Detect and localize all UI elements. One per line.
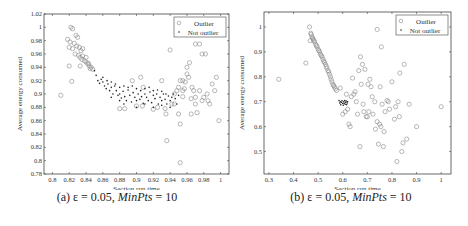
inlier-point [123,85,125,87]
outlier-point [375,27,379,31]
inlier-point [343,101,345,103]
outlier-point [68,40,72,44]
inlier-point [147,100,149,102]
outlier-point [155,105,159,109]
inlier-point [137,93,139,95]
x-tick-label: 0.9 [132,176,140,183]
outlier-point [405,137,409,141]
y-tick-label: 0.96 [31,50,43,57]
outlier-point [373,127,377,131]
caption-minpts-name: MinPts [118,190,153,204]
inlier-point [166,103,168,105]
inlier-point [131,101,133,103]
inlier-point [127,87,129,89]
inlier-point [106,80,108,82]
outlier-point [213,89,217,93]
outlier-point [353,90,357,94]
outlier-point [329,77,333,81]
x-tick-label: 0.3 [265,176,273,183]
inlier-point [144,103,146,105]
caption-label: (b) [290,190,304,204]
outlier-point [165,139,169,143]
inlier-point [344,100,346,102]
outlier-point [181,79,185,83]
inlier-point [110,97,112,99]
outlier-point [369,85,373,89]
x-tick-label: 1 [440,176,443,183]
outlier-point [344,92,348,96]
inlier-point [165,93,167,95]
outlier-point [385,98,389,102]
x-tick-label: 0.88 [114,176,125,183]
x-tick-label: 0.9 [412,176,420,183]
outlier-point [354,100,358,104]
caption-minpts-value: = 10 [390,190,412,204]
axes-frame [44,14,229,174]
outlier-point [189,97,193,101]
inlier-point [163,93,165,95]
caption-minpts-name: MinPts [352,190,387,204]
outlier-point [181,95,185,99]
inlier-point [115,83,117,85]
inlier-point [119,100,121,102]
y-tick-label: 1.02 [31,10,42,17]
y-axis-label: Average energy consumed [238,56,246,130]
outlier-point [214,75,218,79]
inlier-point [164,99,166,101]
y-tick-label: 0.9 [254,48,262,55]
caption-label: (a) [57,190,70,204]
outlier-point [352,92,356,96]
inlier-point [148,87,150,89]
outlier-point [202,95,206,99]
outlier-point [210,82,214,86]
inlier-point [144,93,146,95]
inlier-point [107,83,109,85]
outlier-point [378,85,382,89]
x-tick-label: 0.92 [148,176,159,183]
outlier-point [185,65,189,69]
outlier-point [360,62,364,66]
outlier-point [195,111,199,115]
outlier-point [189,112,193,116]
outlier-point [367,110,371,114]
inlier-point [174,98,176,100]
inlier-point [340,104,342,106]
outlier-point [394,105,398,109]
y-tick-label: 1 [39,23,42,30]
inlier-point [153,95,155,97]
y-tick-label: 1 [259,23,262,30]
outlier-point [343,110,347,114]
outlier-point [348,125,352,129]
y-tick-label: 0.92 [31,77,42,84]
outlier-point [380,102,384,106]
outlier-point [197,42,201,46]
y-tick-label: 0.8 [254,73,262,80]
caption-epsilon: ε = 0.05, [307,190,349,204]
outlier-point [402,62,406,66]
inlier-point [110,81,112,83]
outlier-point [398,71,402,75]
x-tick-label: 0.98 [198,176,209,183]
outlier-point [338,86,342,90]
outlier-point [176,112,180,116]
outlier-point [358,144,362,148]
outlier-point [160,79,164,83]
outlier-point [187,75,191,79]
outlier-point [392,117,396,121]
outlier-point [176,85,180,89]
outlier-point [347,122,351,126]
outlier-point [205,92,209,96]
outlier-point [358,55,362,59]
outlier-point [178,161,182,165]
inlier-point [141,96,143,98]
outlier-point [439,105,443,109]
inlier-point [341,101,343,103]
outlier-point [67,64,71,68]
outlier-point [123,107,127,111]
outlier-point [193,95,197,99]
inlier-point [153,107,155,109]
inlier-point [102,77,104,79]
outlier-point [72,41,76,45]
outlier-point [397,115,401,119]
inlier-point [169,107,171,109]
